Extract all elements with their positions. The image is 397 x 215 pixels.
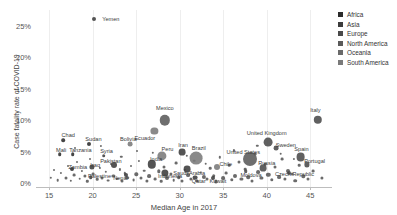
data-point[interactable] <box>274 146 279 151</box>
legend-item-africa[interactable]: Africa <box>338 11 389 18</box>
data-point[interactable] <box>296 152 305 161</box>
data-point[interactable] <box>111 162 117 168</box>
data-point[interactable] <box>307 178 310 181</box>
data-point[interactable] <box>287 171 291 175</box>
legend-item-asia[interactable]: Asia <box>338 21 389 28</box>
data-point[interactable] <box>224 172 227 175</box>
data-point[interactable] <box>158 151 167 160</box>
data-point[interactable] <box>160 115 170 125</box>
data-point[interactable] <box>58 152 62 156</box>
data-point[interactable] <box>64 177 67 180</box>
legend-item-north-america[interactable]: North America <box>338 40 389 47</box>
data-point[interactable] <box>134 173 137 176</box>
data-point[interactable] <box>83 175 86 178</box>
data-point[interactable] <box>116 178 119 181</box>
data-point[interactable] <box>209 167 212 170</box>
data-point[interactable] <box>151 127 158 134</box>
data-point[interactable] <box>228 164 231 167</box>
data-point[interactable] <box>179 148 186 155</box>
data-point[interactable] <box>281 158 284 161</box>
data-point[interactable] <box>96 178 99 181</box>
data-point[interactable] <box>132 179 135 182</box>
data-point[interactable] <box>243 152 257 166</box>
data-point[interactable] <box>154 178 157 181</box>
data-point[interactable] <box>230 178 233 181</box>
data-point[interactable] <box>193 175 198 180</box>
data-point[interactable] <box>237 160 240 163</box>
data-point[interactable] <box>81 170 83 172</box>
data-point[interactable] <box>277 175 281 179</box>
data-point[interactable] <box>181 180 184 183</box>
data-point[interactable] <box>89 175 93 179</box>
data-point[interactable] <box>233 174 237 178</box>
data-point[interactable] <box>121 180 124 183</box>
data-point[interactable] <box>184 165 191 172</box>
data-point[interactable] <box>112 174 115 177</box>
data-point[interactable] <box>157 170 160 173</box>
data-point[interactable] <box>215 180 218 183</box>
data-point[interactable] <box>311 170 314 173</box>
data-point[interactable] <box>293 158 295 160</box>
data-point[interactable] <box>274 165 277 168</box>
data-point[interactable] <box>74 147 76 149</box>
data-point[interactable] <box>160 180 163 183</box>
data-point[interactable] <box>294 179 298 183</box>
data-point[interactable] <box>100 145 102 147</box>
data-point[interactable] <box>320 177 323 180</box>
data-point[interactable] <box>76 161 78 163</box>
legend-item-oceania[interactable]: Oceania <box>338 49 389 56</box>
data-point[interactable] <box>302 175 305 178</box>
data-point[interactable] <box>70 179 72 181</box>
data-point[interactable] <box>256 170 260 174</box>
data-point[interactable] <box>304 162 309 167</box>
data-point[interactable] <box>136 150 138 152</box>
data-point[interactable] <box>130 165 132 167</box>
data-point[interactable] <box>247 175 251 179</box>
data-point[interactable] <box>264 138 273 147</box>
data-point[interactable] <box>71 152 75 156</box>
data-point[interactable] <box>204 162 207 165</box>
data-point[interactable] <box>162 165 165 168</box>
data-point[interactable] <box>270 178 273 181</box>
data-point[interactable] <box>73 174 76 177</box>
data-point[interactable] <box>120 156 122 158</box>
data-point[interactable] <box>214 164 220 170</box>
data-point[interactable] <box>104 171 106 173</box>
data-point[interactable] <box>86 180 88 182</box>
data-point[interactable] <box>128 142 133 147</box>
data-point[interactable] <box>101 176 104 179</box>
data-point[interactable] <box>240 177 243 180</box>
data-point[interactable] <box>61 139 65 143</box>
data-point[interactable] <box>92 17 96 21</box>
data-point[interactable] <box>266 173 270 177</box>
data-point[interactable] <box>177 175 181 179</box>
data-point[interactable] <box>190 152 203 165</box>
data-point[interactable] <box>185 154 187 156</box>
data-point[interactable] <box>98 167 100 169</box>
data-point[interactable] <box>199 171 202 174</box>
data-point[interactable] <box>56 179 59 182</box>
data-point[interactable] <box>205 178 208 181</box>
data-point[interactable] <box>218 156 220 158</box>
data-point[interactable] <box>107 179 110 182</box>
data-point[interactable] <box>118 168 120 170</box>
data-point[interactable] <box>53 169 55 171</box>
data-point[interactable] <box>147 174 151 178</box>
legend-item-south-america[interactable]: South America <box>338 59 389 66</box>
legend-item-europe[interactable]: Europe <box>338 30 389 37</box>
data-point[interactable] <box>138 160 140 162</box>
data-point[interactable] <box>256 145 258 147</box>
data-point[interactable] <box>151 152 153 154</box>
data-point[interactable] <box>165 176 169 180</box>
data-point[interactable] <box>89 158 91 160</box>
data-point[interactable] <box>143 169 146 172</box>
data-point[interactable] <box>211 176 215 180</box>
data-point[interactable] <box>172 179 175 182</box>
data-point[interactable] <box>221 176 225 180</box>
data-point[interactable] <box>250 179 253 182</box>
data-point[interactable] <box>233 149 235 151</box>
data-point[interactable] <box>260 165 267 172</box>
data-point[interactable] <box>87 142 91 146</box>
data-point[interactable] <box>175 162 178 165</box>
data-point[interactable] <box>283 177 286 180</box>
